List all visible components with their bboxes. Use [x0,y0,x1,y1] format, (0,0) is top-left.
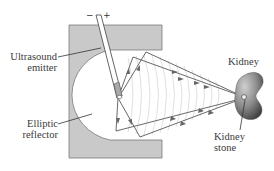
kidney-stone [242,95,247,100]
kidney-label: Kidney [228,56,259,67]
plus-terminal-label: + [103,10,111,20]
ultrasound-wavefronts [128,55,219,135]
kidney [235,73,263,120]
elliptic-reflector-label: Elliptic reflector [22,118,58,140]
ultrasound-emitter-label: Ultrasound emitter [10,51,57,73]
minus-terminal-label: − [86,10,94,20]
reflected-rays [116,52,244,137]
kidney-stone-label: Kidney stone [214,131,245,153]
lithotripsy-diagram: − + Ultrasound emitter Elliptic reflecto… [0,0,274,171]
ray-arrowheads [116,65,214,126]
